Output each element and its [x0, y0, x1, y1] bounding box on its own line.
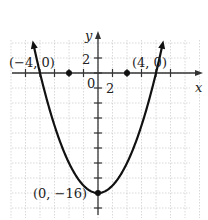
x-tick-label: 2 — [106, 81, 114, 96]
y-tick-label: 2 — [82, 52, 90, 67]
curve-arrow-left-icon — [31, 41, 38, 50]
vertex-label: (0, −16) — [33, 186, 87, 201]
parabola-graph: x y 2 0 2 (−4, 0) (4, 0) (0, −16) — [0, 0, 208, 220]
curve-arrow-right-icon — [158, 41, 165, 50]
origin-label: 0 — [87, 76, 95, 91]
x-axis-label: x — [195, 80, 203, 95]
point-4-0 — [124, 70, 130, 76]
point-label-left: (−4, 0) — [9, 55, 55, 70]
point-neg4-0 — [66, 70, 72, 76]
vertex-point — [95, 190, 101, 196]
y-axis-label: y — [84, 28, 93, 43]
point-label-right: (4, 0) — [132, 55, 167, 70]
